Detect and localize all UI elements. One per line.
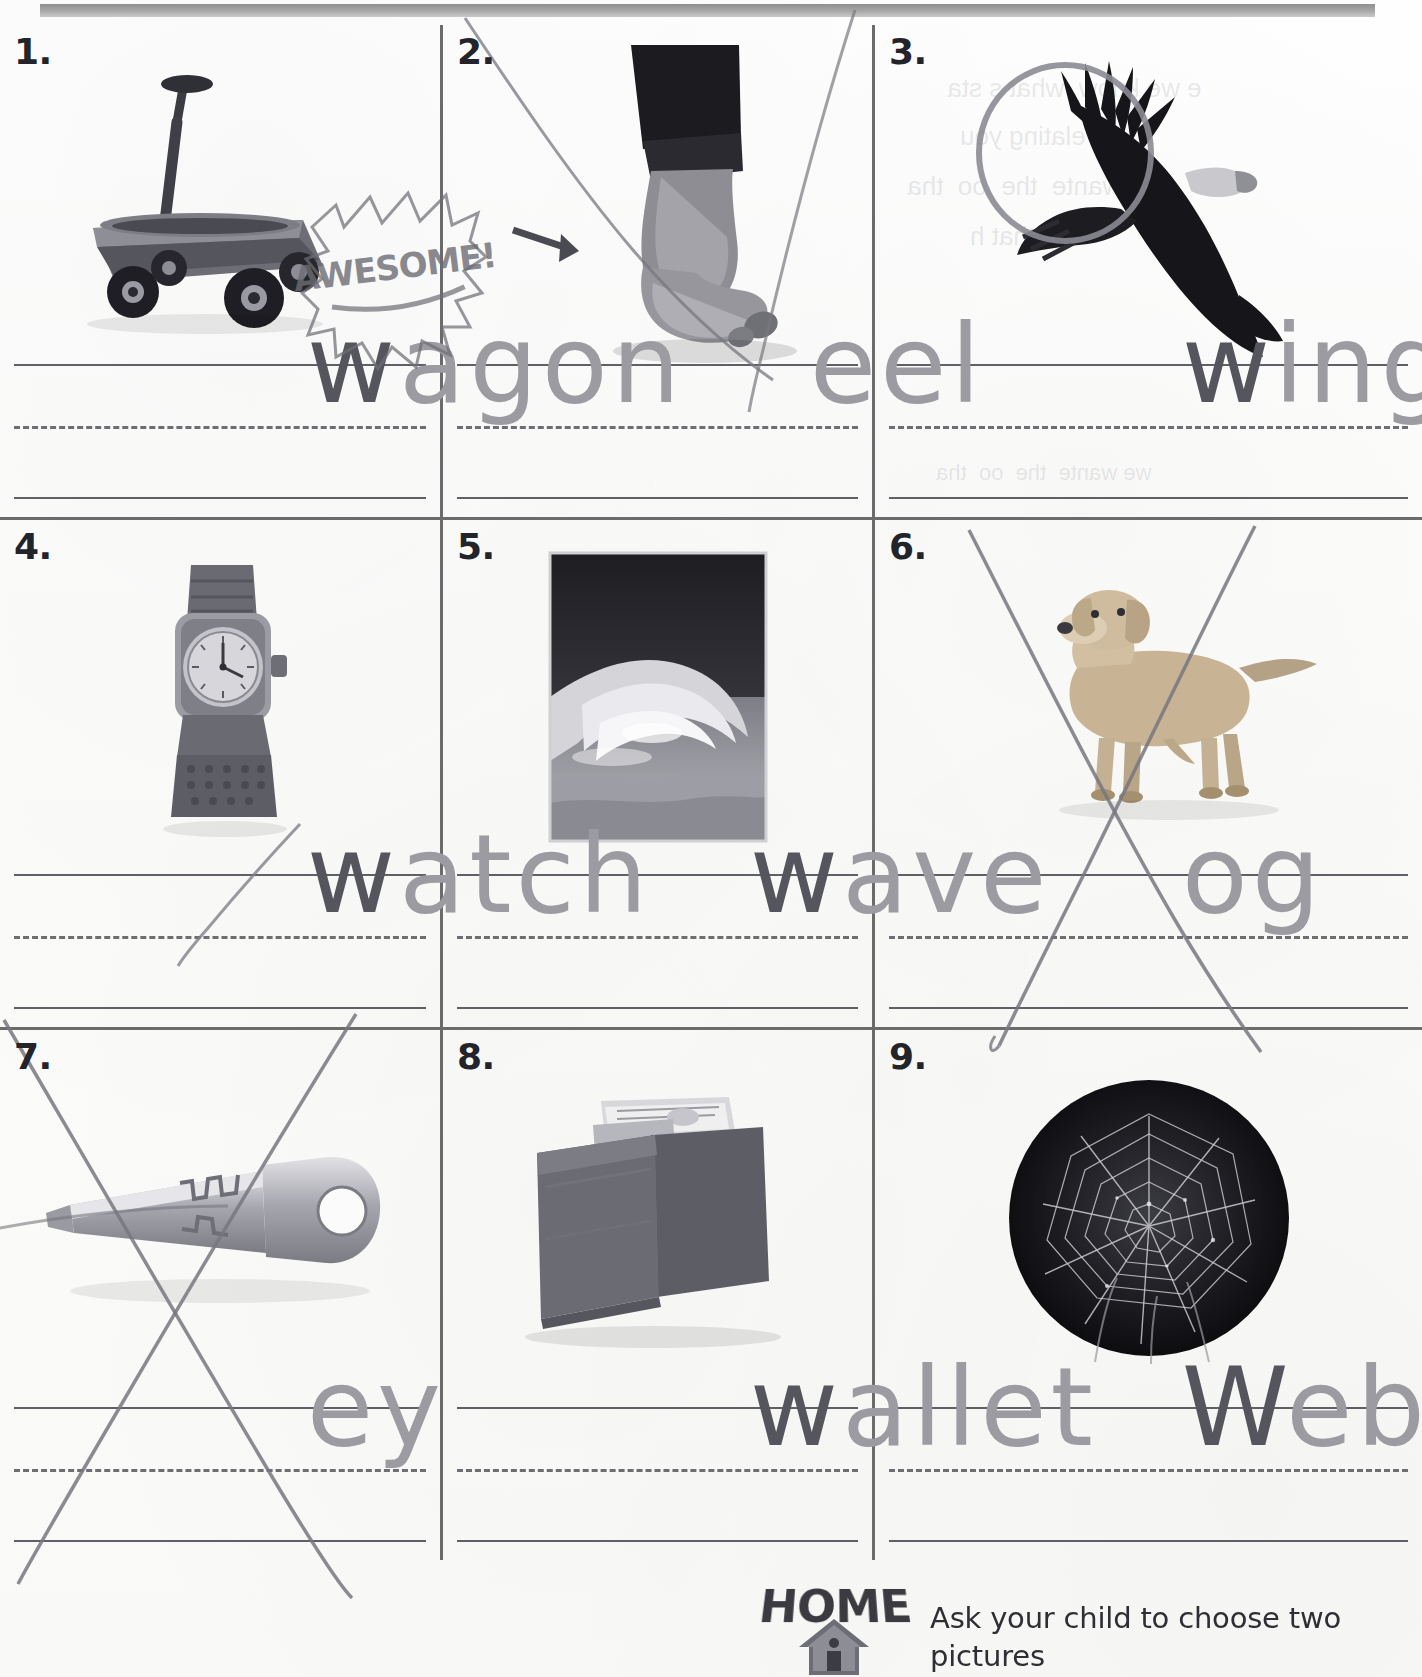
cell-number-5: 5. [457,526,495,567]
word-7: ey [0,1246,440,1570]
word-8: wallet [443,1246,872,1570]
word-2: eel [443,203,872,527]
traced-word-9: eb [1286,1345,1422,1470]
top-rule-bar [40,4,1375,17]
home-connection-logo: HOME [755,1565,915,1677]
house-icon [797,1617,871,1677]
worksheet-page: e we know what s sta s relating you we w… [0,0,1422,1677]
word-5: wave [443,713,872,1037]
cell-number-8: 8. [457,1036,495,1077]
worksheet-cell-5[interactable]: 5. [443,520,875,1030]
written-letter-1: w [307,302,399,427]
worksheet-cell-3[interactable]: 3. [875,25,1422,520]
worksheet-grid: 1. [0,25,1422,1560]
footer-instruction-text: Ask your child to choose two pictures [930,1599,1422,1675]
footer: HOME Ask your child to choose two pictur… [0,1560,1422,1677]
written-letter-9: W [1182,1345,1286,1470]
traced-word-7: ey [307,1345,445,1470]
written-letter-3: w [1182,302,1274,427]
written-letter-8: w [750,1345,842,1470]
worksheet-cell-4[interactable]: 4. [0,520,443,1030]
worksheet-cell-7[interactable]: 7. [0,1030,443,1560]
word-6: og [875,713,1422,1037]
traced-word-6: og [1182,812,1325,937]
cell-number-7: 7. [14,1036,52,1077]
cell-number-3: 3. [889,31,927,72]
worksheet-cell-2[interactable]: 2. [443,25,875,520]
word-3: wing [875,203,1422,527]
traced-word-3: ing [1274,302,1422,427]
cell-number-2: 2. [457,31,495,72]
written-letter-4: w [307,812,399,937]
cell-number-9: 9. [889,1036,927,1077]
worksheet-cell-9[interactable]: 9. [875,1030,1422,1560]
cell-number-1: 1. [14,31,52,72]
worksheet-cell-8[interactable]: 8. [443,1030,875,1560]
cell-number-4: 4. [14,526,52,567]
cell-number-6: 6. [889,526,927,567]
written-letter-5: w [750,812,842,937]
worksheet-cell-6[interactable]: 6. [875,520,1422,1030]
word-4: watch [0,713,440,1037]
word-9: Web [875,1246,1422,1570]
worksheet-cell-1[interactable]: 1. [0,25,443,520]
word-1: wagon [0,203,440,527]
